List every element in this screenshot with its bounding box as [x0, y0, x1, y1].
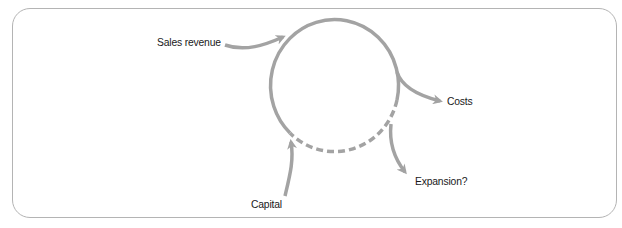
label-costs: Costs	[447, 95, 473, 107]
label-sales-revenue: Sales revenue	[157, 36, 221, 48]
cycle-dashed-arc	[290, 100, 397, 152]
label-capital: Capital	[251, 198, 282, 210]
label-expansion: Expansion?	[415, 175, 467, 187]
expansion-arrow	[391, 124, 405, 172]
sales-revenue-arrow	[225, 37, 283, 48]
cycle-solid-arc	[271, 20, 399, 133]
cash-cycle-diagram	[0, 0, 622, 228]
costs-arrow	[397, 72, 440, 101]
capital-arrow	[285, 142, 292, 196]
